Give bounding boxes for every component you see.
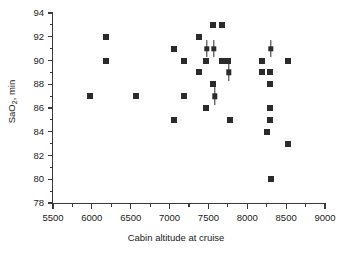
data-point <box>103 58 109 64</box>
data-point <box>87 93 93 99</box>
data-point <box>259 69 265 75</box>
data-point <box>212 93 217 98</box>
y-tick-label: 92 <box>33 32 44 42</box>
data-point <box>259 58 265 64</box>
data-point <box>103 34 109 40</box>
scatter-chart-figure: 788082848688909294 550060006500700075008… <box>0 0 352 257</box>
x-tick-major <box>324 204 325 209</box>
x-tick-minor <box>266 204 267 207</box>
x-tick-major <box>286 204 287 209</box>
y-tick-label: 82 <box>33 151 44 161</box>
data-point <box>181 58 187 64</box>
data-point <box>171 46 177 52</box>
data-point <box>227 117 233 123</box>
data-point <box>285 58 291 64</box>
x-tick-label: 5500 <box>42 213 63 223</box>
data-point <box>267 117 273 123</box>
y-tick-label: 84 <box>33 127 44 137</box>
data-point <box>133 93 139 99</box>
x-tick-label: 8500 <box>276 213 297 223</box>
y-tick-label: 90 <box>33 56 44 66</box>
plot-data-area <box>53 13 325 203</box>
x-tick-major <box>91 204 92 209</box>
x-tick-label: 6500 <box>120 213 141 223</box>
data-point <box>226 70 231 75</box>
data-point <box>181 93 187 99</box>
data-point <box>285 141 291 147</box>
x-tick-major <box>52 204 53 209</box>
x-tick-major <box>169 204 170 209</box>
data-point <box>204 46 209 51</box>
x-tick-major <box>208 204 209 209</box>
data-point <box>203 105 209 111</box>
y-axis-title: SaO2, min <box>6 47 17 157</box>
x-tick-label: 6000 <box>81 213 102 223</box>
y-tick-label: 94 <box>33 8 44 18</box>
y-tick-label: 88 <box>33 79 44 89</box>
data-point <box>267 81 273 87</box>
data-point <box>267 69 273 75</box>
data-point <box>268 46 273 51</box>
data-point <box>219 22 225 28</box>
x-tick-major <box>130 204 131 209</box>
x-tick-minor <box>72 204 73 207</box>
data-point <box>268 176 274 182</box>
data-point <box>264 129 270 135</box>
data-point <box>210 22 216 28</box>
data-point <box>196 69 202 75</box>
data-point <box>267 105 273 111</box>
x-tick-minor <box>150 204 151 207</box>
y-tick-label: 86 <box>33 103 44 113</box>
x-tick-label: 8000 <box>237 213 258 223</box>
data-point <box>211 46 216 51</box>
y-tick-label: 80 <box>33 174 44 184</box>
x-tick-minor <box>188 204 189 207</box>
data-point <box>196 34 202 40</box>
x-tick-label: 9000 <box>314 213 335 223</box>
x-axis-ticks: 55006000650070007500800085009000 <box>0 204 352 216</box>
x-tick-label: 7500 <box>198 213 219 223</box>
x-tick-minor <box>111 204 112 207</box>
x-axis-title: Cabin altitude at cruise <box>0 232 352 243</box>
x-tick-label: 7000 <box>159 213 180 223</box>
data-point <box>171 117 177 123</box>
x-tick-minor <box>305 204 306 207</box>
x-tick-minor <box>227 204 228 207</box>
data-point <box>203 58 209 64</box>
x-tick-major <box>247 204 248 209</box>
